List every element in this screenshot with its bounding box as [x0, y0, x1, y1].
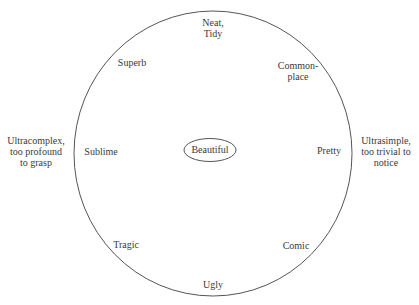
outside-label-ultracomplex: Ultracomplex, too profound to grasp	[3, 135, 69, 168]
label-neat-tidy: Neat, Tidy	[183, 17, 243, 39]
label-sublime: Sublime	[76, 146, 126, 157]
label-comic: Comic	[276, 240, 316, 251]
outside-label-ultrasimple: Ultrasimple, too trivial to notice	[354, 135, 418, 168]
label-commonplace: Common- place	[268, 60, 328, 82]
label-pretty: Pretty	[309, 145, 349, 156]
center-label-text: Beautiful	[180, 144, 240, 155]
label-ugly: Ugly	[193, 279, 233, 290]
label-tragic: Tragic	[106, 239, 146, 250]
center-label-beautiful: Beautiful	[180, 144, 240, 155]
label-superb: Superb	[108, 57, 156, 68]
